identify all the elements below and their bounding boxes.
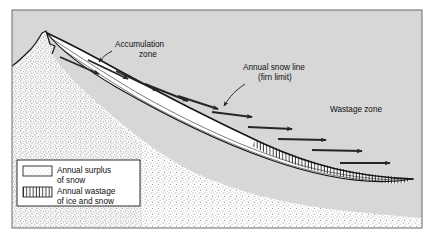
snow-line-label-line1: Annual snow line: [243, 63, 305, 72]
accumulation-zone-label-line2: zone: [139, 50, 157, 59]
diagram-canvas: Accumulation zone Annual snow line (firn…: [0, 0, 433, 242]
accumulation-zone-label-line1: Accumulation: [115, 40, 165, 49]
snow-line-label-line2: (firn limit): [258, 73, 292, 82]
legend-swatch-vertical-hatch: [23, 187, 52, 197]
legend-label-wastage-line1: Annual wastage: [57, 187, 116, 196]
legend-label-wastage-line2: of ice and snow: [57, 197, 114, 206]
legend-label-surplus-line2: of snow: [57, 176, 85, 185]
legend-label-surplus-line1: Annual surplus: [57, 166, 111, 175]
wastage-zone-label: Wastage zone: [330, 105, 382, 114]
legend-swatch-stipple: [23, 166, 52, 176]
legend: Annual surplus of snow Annual wastage of…: [17, 160, 140, 206]
